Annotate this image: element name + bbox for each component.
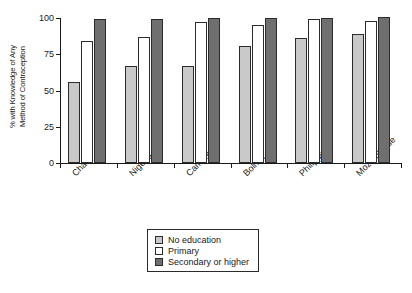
bar — [295, 38, 307, 163]
bar-group — [352, 18, 390, 163]
bar — [352, 34, 364, 163]
legend-label: No education — [168, 235, 221, 245]
bar — [239, 46, 251, 163]
legend-item: Primary — [155, 245, 249, 256]
y-axis-title-line2: Method of Contraception — [17, 46, 27, 129]
y-tick-mark — [56, 54, 60, 55]
y-tick-label: 75 — [44, 49, 54, 59]
legend-swatch-icon — [155, 236, 163, 244]
bar — [125, 66, 137, 163]
bar — [208, 18, 220, 163]
x-tick-mark — [344, 163, 345, 168]
y-tick-label: 50 — [44, 86, 54, 96]
bar-group — [182, 18, 220, 163]
bar-group — [295, 18, 333, 163]
legend-swatch-icon — [155, 247, 163, 255]
bar-group — [239, 18, 277, 163]
bar — [151, 19, 163, 163]
plot-area: 0255075100 — [60, 18, 401, 163]
x-tick-mark — [287, 163, 288, 168]
bar — [321, 18, 333, 163]
bar — [378, 17, 390, 163]
x-tick-mark — [231, 163, 232, 168]
bar — [365, 21, 377, 163]
x-tick-mark — [174, 163, 175, 168]
legend-label: Secondary or higher — [168, 257, 249, 267]
y-tick-label: 100 — [39, 13, 54, 23]
y-tick-mark — [56, 91, 60, 92]
y-axis-title: % with Knowledge of Any Method of Contra… — [2, 12, 32, 162]
y-tick-mark — [56, 18, 60, 19]
bar — [81, 41, 93, 163]
y-tick-label: 25 — [44, 122, 54, 132]
bar — [68, 82, 80, 163]
x-tick-mark — [60, 163, 61, 168]
bar — [94, 19, 106, 163]
bar — [252, 25, 264, 163]
bar — [265, 18, 277, 163]
chart-legend: No educationPrimarySecondary or higher — [147, 229, 259, 272]
bar-chart-figure: % with Knowledge of Any Method of Contra… — [0, 0, 412, 293]
bar — [195, 22, 207, 163]
x-tick-mark — [401, 163, 402, 168]
bar — [308, 19, 320, 163]
bar — [182, 66, 194, 163]
legend-item: Secondary or higher — [155, 256, 249, 267]
y-axis-line — [60, 18, 61, 163]
bar — [138, 37, 150, 163]
y-tick-label: 0 — [49, 158, 54, 168]
legend-label: Primary — [168, 246, 199, 256]
y-tick-mark — [56, 127, 60, 128]
y-axis-title-line1: % with Knowledge of Any — [7, 46, 16, 129]
bar-group — [125, 18, 163, 163]
legend-swatch-icon — [155, 258, 163, 266]
x-tick-mark — [117, 163, 118, 168]
legend-item: No education — [155, 234, 249, 245]
bar-group — [68, 18, 106, 163]
